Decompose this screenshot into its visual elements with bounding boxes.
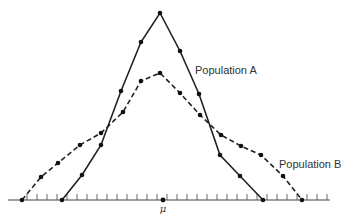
data-point	[281, 174, 286, 179]
series-label: Population A	[195, 64, 257, 76]
data-point	[56, 161, 61, 166]
data-point	[239, 144, 244, 149]
data-point	[80, 173, 85, 178]
data-point	[60, 198, 65, 203]
data-point	[119, 89, 124, 94]
data-point	[300, 198, 305, 203]
annotations: Population APopulation B	[195, 64, 341, 170]
data-point	[259, 153, 264, 158]
data-point	[218, 153, 223, 158]
data-point	[238, 174, 243, 179]
data-point	[178, 91, 183, 96]
population-b-points	[20, 71, 305, 203]
data-point	[178, 49, 183, 54]
x-axis: μ	[8, 194, 330, 214]
distribution-chart: μ Population APopulation B	[0, 0, 347, 220]
population-a-line	[62, 13, 263, 200]
data-point	[99, 143, 104, 148]
data-point	[198, 113, 203, 118]
data-point	[197, 92, 202, 97]
data-point	[261, 198, 266, 203]
data-point	[121, 110, 126, 115]
data-point	[139, 40, 144, 45]
mean-label: μ	[160, 203, 167, 214]
data-point	[39, 175, 44, 180]
data-point	[99, 131, 104, 136]
data-point	[158, 11, 163, 16]
data-point	[219, 133, 224, 138]
series-label: Population B	[279, 158, 341, 170]
data-point	[78, 143, 83, 148]
data-point	[158, 71, 163, 76]
population-b-line	[22, 73, 302, 200]
mean-marker	[161, 198, 166, 203]
data-point	[20, 198, 25, 203]
data-point	[139, 79, 144, 84]
population-a-points	[60, 11, 266, 203]
